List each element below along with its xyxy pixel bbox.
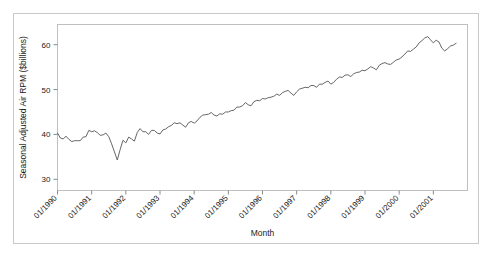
y-axis-ticks: 30405060 xyxy=(42,41,58,185)
x-tick-label: 01/1999 xyxy=(340,193,367,220)
x-tick-label: 01/1994 xyxy=(169,193,196,220)
x-tick-label: 01/1997 xyxy=(271,193,298,220)
chart-figure: 30405060 01/199001/199101/199201/199301/… xyxy=(0,0,493,261)
x-tick-label: 01/1996 xyxy=(237,193,264,220)
x-tick-label: 01/1992 xyxy=(100,193,127,220)
x-tick-label: 01/1998 xyxy=(305,193,332,220)
x-axis-ticks: 01/199001/199101/199201/199301/199401/19… xyxy=(32,191,435,221)
y-tick-label: 50 xyxy=(42,86,51,95)
x-axis-title: Month xyxy=(251,228,275,238)
y-axis-title: Seasonal Adjusted Air RPM ($billions) xyxy=(18,36,28,179)
plot-area-border xyxy=(58,25,468,191)
line-chart: 30405060 01/199001/199101/199201/199301/… xyxy=(0,0,493,261)
x-tick-label: 01/1995 xyxy=(203,193,230,220)
y-tick-label: 40 xyxy=(42,130,51,139)
y-tick-label: 60 xyxy=(42,41,51,50)
x-tick-label: 01/2001 xyxy=(408,193,435,220)
x-tick-label: 01/1990 xyxy=(32,193,59,220)
data-series-line xyxy=(58,37,457,160)
y-tick-label: 30 xyxy=(42,175,51,184)
x-tick-label: 01/1991 xyxy=(66,193,93,220)
x-tick-label: 01/2000 xyxy=(374,193,401,220)
x-tick-label: 01/1993 xyxy=(135,193,162,220)
